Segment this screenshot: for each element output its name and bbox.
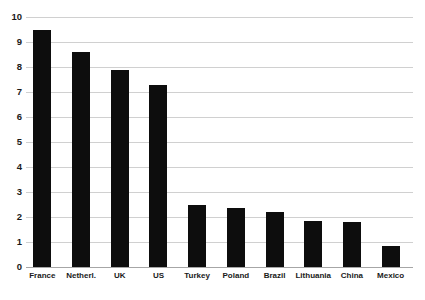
y-tick-label: 6 (2, 112, 22, 122)
x-tick-label: UK (114, 270, 126, 282)
y-tick-label: 7 (2, 87, 22, 97)
x-tick-label: Poland (223, 270, 250, 282)
x-axis-tick-labels: FranceNetherl.UKUSTurkeyPolandBrazilLith… (26, 270, 413, 286)
bar (33, 30, 51, 268)
plot-area (26, 17, 413, 267)
x-tick-label: Netherl. (66, 270, 96, 282)
bar (111, 70, 129, 268)
y-tick-label: 9 (2, 37, 22, 47)
bar (227, 208, 245, 267)
x-tick-label: Mexico (377, 270, 404, 282)
y-axis-tick-labels: 012345678910 (0, 17, 22, 267)
y-tick-label: 1 (2, 237, 22, 247)
bars (26, 17, 413, 267)
x-tick-label: China (341, 270, 363, 282)
y-tick-label: 5 (2, 137, 22, 147)
y-tick-label: 4 (2, 162, 22, 172)
bar-chart: 012345678910 FranceNetherl.UKUSTurkeyPol… (0, 0, 425, 300)
bar (72, 52, 90, 267)
x-tick-label: France (29, 270, 55, 282)
x-tick-label: Lithuania (295, 270, 331, 282)
x-tick-label: Turkey (184, 270, 210, 282)
x-tick-label: Brazil (264, 270, 286, 282)
bar (304, 221, 322, 267)
bar (343, 222, 361, 267)
x-tick-label: US (153, 270, 164, 282)
bar (149, 85, 167, 268)
bar (382, 246, 400, 267)
bar (266, 212, 284, 267)
y-tick-label: 8 (2, 62, 22, 72)
y-tick-label: 0 (2, 262, 22, 272)
y-tick-label: 2 (2, 212, 22, 222)
bar (188, 205, 206, 268)
y-tick-label: 3 (2, 187, 22, 197)
axis-baseline (26, 267, 413, 268)
y-tick-label: 10 (2, 12, 22, 22)
